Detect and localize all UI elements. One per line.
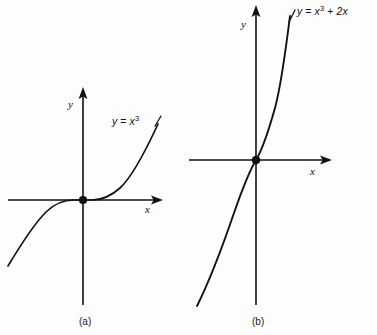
panel-a-y-axis-label: y bbox=[68, 99, 73, 110]
panel-a-eq-lhs: y bbox=[112, 115, 117, 127]
panel-a-curve-equation-label: y=x3 bbox=[112, 116, 139, 127]
panel-b-eq-equals: = bbox=[305, 5, 311, 17]
panel-b-y-axis-label: y bbox=[241, 19, 246, 30]
panel-a-eq-exponent: 3 bbox=[135, 114, 139, 123]
panel-a-eq-equals: = bbox=[120, 115, 126, 127]
panel-b-eq-linear-term: 2x bbox=[336, 5, 347, 17]
panel-a-caption: (a) bbox=[79, 317, 91, 327]
panel-b-curve-equation-label: y=x3+2x bbox=[297, 6, 348, 17]
panel-b-origin-dot bbox=[252, 156, 261, 165]
panel-a-graph bbox=[8, 87, 163, 305]
panel-b-eq-lhs: y bbox=[297, 5, 302, 17]
panel-b-x-axis-label: x bbox=[310, 166, 315, 177]
panel-b-eq-plus: + bbox=[327, 5, 333, 17]
panel-b-curve-cubic-plus-linear bbox=[197, 16, 290, 306]
panel-a-origin-dot bbox=[79, 196, 87, 204]
figure-container: y x y=x3 (a) y x y=x3+2x (b) bbox=[0, 0, 377, 335]
panel-b-graph bbox=[189, 5, 332, 306]
panel-b-caption: (b) bbox=[252, 317, 264, 327]
panel-a-x-axis-label: x bbox=[145, 204, 150, 215]
graphs-vector-layer bbox=[0, 0, 377, 335]
panel-b-eq-exponent: 3 bbox=[320, 4, 324, 13]
